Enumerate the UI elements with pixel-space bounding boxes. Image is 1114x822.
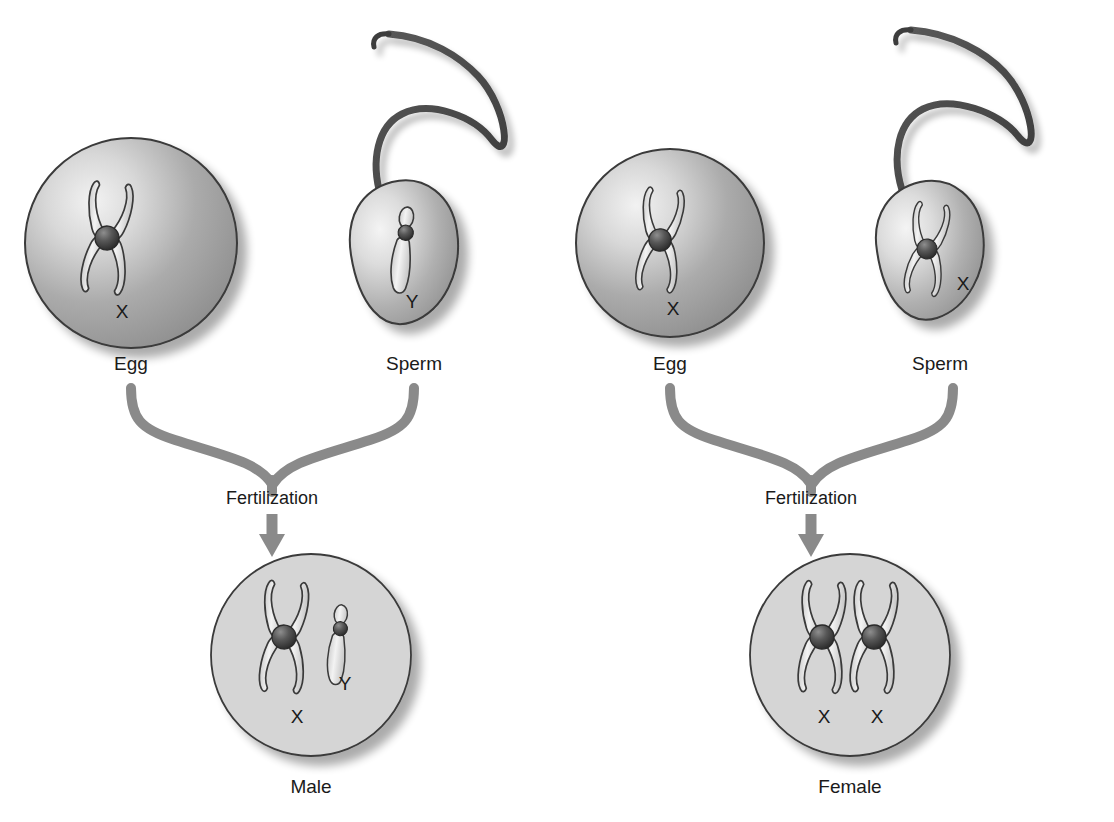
female-pathway: X Egg X Sperm (576, 30, 1031, 797)
zygote-male-cell[interactable]: X Y (211, 554, 411, 756)
male-pathway: X Egg Y Sperm (25, 34, 504, 797)
sperm-left-label: Sperm (386, 353, 442, 374)
female-zygote-arrow (798, 514, 824, 557)
sperm-right-flagellum (896, 30, 1032, 190)
sperm-right-cell[interactable]: X (876, 30, 1031, 320)
egg-right-label: Egg (653, 353, 687, 374)
zygote-male-label: Male (290, 776, 331, 797)
zygote-female-membrane (750, 554, 950, 756)
female-fertilization-label: Fertilization (765, 488, 857, 508)
zygote-male-membrane (211, 554, 411, 756)
diagram-canvas: X Egg Y Sperm (0, 0, 1114, 822)
egg-left-cell[interactable]: X (25, 138, 237, 348)
zygote-male-chromosome-label-y: Y (339, 673, 352, 694)
zygote-female-label: Female (818, 776, 881, 797)
zygote-female-cell[interactable]: X X (750, 554, 950, 756)
male-fertilization-arrow (131, 388, 414, 492)
zygote-male-chromosome-label-x: X (291, 706, 304, 727)
male-fertilization-label: Fertilization (226, 488, 318, 508)
sperm-right-label: Sperm (912, 353, 968, 374)
egg-right-cell[interactable]: X (576, 149, 764, 337)
female-fertilization-arrow (670, 388, 953, 492)
egg-left-chromosome-label: X (116, 301, 129, 322)
zygote-female-chromosome-label-2: X (871, 706, 884, 727)
egg-right-chromosome-label: X (667, 298, 680, 319)
egg-membrane (25, 138, 237, 348)
sperm-left-chromosome-label: Y (406, 291, 419, 312)
male-zygote-arrow (259, 514, 285, 557)
sperm-left-flagellum (374, 34, 505, 197)
zygote-female-chromosome-label-1: X (818, 706, 831, 727)
sperm-right-chromosome-label: X (957, 273, 970, 294)
egg-left-label: Egg (114, 353, 148, 374)
sperm-left-cell[interactable]: Y (350, 34, 505, 324)
sex-determination-diagram: X Egg Y Sperm (0, 0, 1114, 822)
